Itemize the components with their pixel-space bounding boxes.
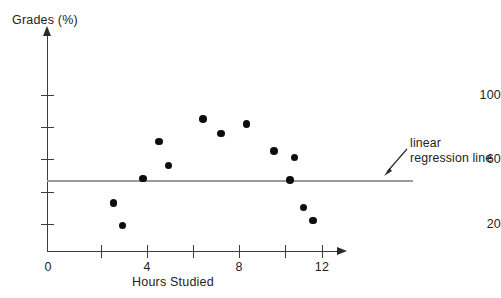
x-axis-tick-label-4: 4 [127,260,167,274]
x-axis-arrowhead-icon [337,247,347,255]
x-axis-tick-label-12: 12 [302,260,342,274]
y-axis-tick-80 [41,127,54,128]
y-axis-tick-40 [41,192,54,193]
data-point [217,130,225,138]
data-point [165,162,173,170]
y-axis-tick-label-100: 100 [457,88,501,102]
x-axis-tick-12 [322,245,323,258]
y-axis-tick-60 [41,159,54,160]
data-point [291,154,299,162]
data-point [309,217,317,225]
data-point [155,138,163,146]
y-axis-title: Grades (%) [12,13,78,27]
y-axis-tick-100 [41,95,54,96]
data-point [243,120,251,128]
scatter-plot-figure: Grades (%) 100 60 20 0 4 8 12 Hours Stud… [0,0,501,298]
data-point [199,115,207,123]
data-point [119,222,127,230]
data-point [300,204,308,212]
x-axis-tick-10 [285,245,286,258]
data-point [270,147,278,155]
callout-line-2: regression line [410,151,492,165]
data-point [110,199,118,207]
x-axis-tick-4 [147,245,148,258]
linear-regression-line [47,180,413,181]
data-point [286,176,294,184]
regression-line-callout-label: linear regression line [410,136,496,166]
x-axis-tick-2 [101,245,102,258]
y-axis-tick-label-20: 20 [457,217,501,231]
x-axis-tick-label-8: 8 [219,260,259,274]
y-axis-tick-20 [41,224,54,225]
x-axis-tick-label-0: 0 [28,260,68,274]
callout-line-1: linear [410,136,441,150]
callout-arrow-icon [376,146,410,184]
x-axis-title: Hours Studied [132,275,214,289]
x-axis-tick-8 [239,245,240,258]
y-axis-line [47,35,48,252]
y-axis-arrowhead-icon [43,26,51,36]
x-axis-tick-6 [193,245,194,258]
